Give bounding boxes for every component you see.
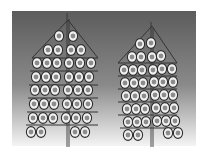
bead-center [78,61,83,66]
bead-center [33,88,38,93]
bead-center [144,120,149,125]
bead-center [151,68,156,73]
bead-center [46,48,51,53]
bead-center [56,48,61,53]
bead-center [42,102,47,107]
bead-center [134,107,139,112]
bead-center [122,68,127,73]
bead-center [133,94,138,99]
bead-center [32,102,37,107]
bead-center [74,116,79,121]
bead-center [126,120,131,125]
bead-center [39,130,44,135]
bead-center [142,94,147,99]
bead-center [77,75,82,80]
bead-center [67,75,72,80]
bead-center [65,102,70,107]
bead-center [171,80,176,85]
bead-center [71,34,76,39]
bead-center [124,94,129,99]
bead-center [79,48,84,53]
bead-center [164,119,169,124]
bead-center [149,41,154,46]
bead-center [131,68,136,73]
bead-center [132,81,137,86]
bead-center [52,102,57,107]
bead-center [85,116,90,121]
bead-center [64,116,69,121]
scene [0,0,208,156]
bead-center [138,42,143,47]
bead-center [51,116,56,121]
bead-center [86,102,91,107]
bead-center [35,61,40,66]
bead-center [87,75,92,80]
bead-center [154,106,159,111]
bead-center [155,119,160,124]
bead-center [76,88,81,93]
bead-center [45,61,50,66]
bead-center [123,81,128,86]
bead-center [136,133,141,138]
bead-center [73,130,78,135]
bead-center [57,34,62,39]
bead-center [135,120,140,125]
bead-center [141,81,146,86]
bead-center [126,133,131,138]
bead-center [29,130,34,135]
bead-center [130,55,135,60]
bead-center [163,106,168,111]
bead-center [173,119,178,124]
bead-center [86,88,91,93]
bead-center [55,61,60,66]
bead-center [89,61,94,66]
bead-center [172,106,177,111]
bead-center [161,80,166,85]
bead-center [176,131,181,136]
bead-center [152,80,157,85]
bead-center [170,67,175,72]
bead-center [53,88,58,93]
bead-center [166,131,171,136]
bead-center [140,68,145,73]
bead-center [75,102,80,107]
bead-center [143,107,148,112]
bead-center [150,55,155,60]
bead-center [34,75,39,80]
bead-center [44,75,49,80]
bead-center [67,61,72,66]
bead-center [171,93,176,98]
bead-center [31,116,36,121]
bead-center [162,93,167,98]
bead-center [153,93,158,98]
bead-center [125,107,130,112]
bead-center [66,88,71,93]
bead-center [43,88,48,93]
bead-center [54,75,59,80]
bead-center [41,116,46,121]
bead-center [139,55,144,60]
bead-center [69,48,74,53]
bead-center [159,54,164,59]
bead-center [83,130,88,135]
bead-center [160,67,165,72]
